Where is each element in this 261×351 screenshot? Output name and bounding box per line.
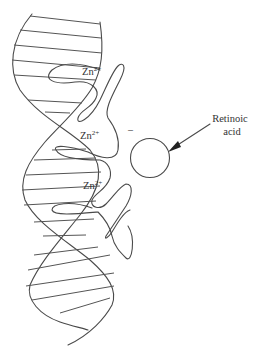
zn-label-2: Zn2+	[80, 129, 99, 141]
zinc-finger-protein	[49, 64, 132, 238]
retinoic-acid-label-line2: acid	[223, 126, 241, 137]
charge-minus: –	[127, 124, 134, 135]
retinoic-acid-label-line1: Retinoic	[212, 113, 248, 124]
zn-label-3: Zn2+	[83, 179, 102, 191]
zn-label-1: Zn2+	[82, 65, 101, 77]
retinoic-acid-arrowhead	[168, 141, 181, 152]
diagram-canvas: Zn2+ Zn2+ Zn2+ – Retinoic acid	[0, 0, 261, 351]
retinoic-acid-ligand	[131, 139, 170, 178]
zinc-finger-lower	[52, 204, 132, 259]
